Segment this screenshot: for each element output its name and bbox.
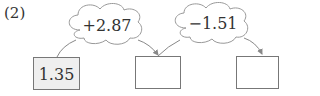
start-value: 1.35 [34, 64, 79, 83]
answer-box-1[interactable] [135, 56, 181, 89]
start-value-box: 1.35 [33, 57, 80, 90]
operation-1-label: +2.87 [76, 16, 138, 35]
operation-2-label: −1.51 [182, 14, 244, 33]
answer-box-2[interactable] [236, 56, 279, 89]
